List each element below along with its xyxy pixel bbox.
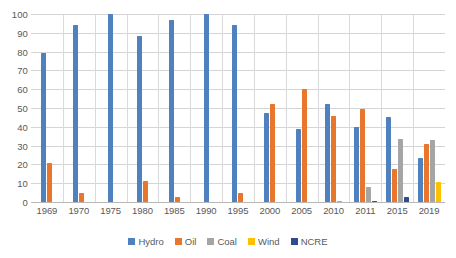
x-axis-tick: 1975 [95, 203, 127, 219]
bar-oil [79, 193, 84, 202]
bar-group [349, 14, 381, 202]
bar-oil [302, 89, 307, 202]
bar-wind [436, 182, 441, 202]
bar-oil [175, 197, 180, 202]
bar-ncre [372, 201, 377, 202]
plot-area [31, 14, 445, 202]
legend-label: Oil [185, 236, 197, 247]
x-axis-tick: 1970 [63, 203, 95, 219]
chart-legend: HydroOilCoalWindNCRE [0, 233, 456, 249]
x-axis-tick: 1980 [127, 203, 159, 219]
legend-item-ncre[interactable]: NCRE [291, 236, 328, 247]
bar-oil [270, 104, 275, 202]
bar-group [381, 14, 413, 202]
legend-label: NCRE [301, 236, 328, 247]
bar-oil [331, 116, 336, 202]
x-axis-tick: 2019 [413, 203, 445, 219]
bar-group [127, 14, 159, 202]
legend-item-wind[interactable]: Wind [248, 236, 280, 247]
y-axis-tick: 10 [17, 178, 28, 189]
x-axis-tick: 1995 [222, 203, 254, 219]
bar-group [158, 14, 190, 202]
bar-group [413, 14, 445, 202]
y-axis-tick: 30 [17, 140, 28, 151]
bar-ncre [404, 197, 409, 202]
bar-oil [238, 193, 243, 202]
legend-label: Coal [217, 236, 237, 247]
bar-chart: 1009080706050403020100 19691970197519801… [0, 0, 456, 258]
bar-group [95, 14, 127, 202]
bar-hydro [73, 25, 78, 202]
x-axis-tick: 2000 [254, 203, 286, 219]
bar-hydro [296, 129, 301, 202]
x-axis-tick: 2005 [286, 203, 318, 219]
bar-coal [398, 139, 403, 202]
bar-oil [392, 169, 397, 202]
bar-group [31, 14, 63, 202]
bar-groups [31, 14, 445, 202]
legend-label: Hydro [138, 236, 163, 247]
x-axis-tick: 2010 [318, 203, 350, 219]
y-axis-tick: 50 [17, 103, 28, 114]
bar-hydro [169, 20, 174, 202]
bar-hydro [232, 25, 237, 202]
bar-group [286, 14, 318, 202]
x-axis-tick: 1985 [158, 203, 190, 219]
y-axis-tick: 40 [17, 121, 28, 132]
bar-oil [143, 181, 148, 202]
bar-hydro [108, 14, 113, 202]
y-axis-tick: 90 [17, 27, 28, 38]
bar-coal [337, 201, 342, 202]
y-axis-tick: 80 [17, 46, 28, 57]
legend-swatch-icon [291, 238, 298, 245]
bar-hydro [354, 127, 359, 202]
x-axis-tick: 1969 [31, 203, 63, 219]
bar-hydro [204, 14, 209, 202]
y-axis-tick: 0 [23, 197, 28, 208]
y-axis-tick: 20 [17, 159, 28, 170]
bar-hydro [386, 117, 391, 202]
bar-coal [366, 187, 371, 202]
y-axis: 1009080706050403020100 [0, 14, 28, 202]
y-axis-tick: 100 [12, 9, 28, 20]
x-axis-tick: 2015 [381, 203, 413, 219]
legend-label: Wind [258, 236, 280, 247]
legend-swatch-icon [128, 238, 135, 245]
bar-oil [360, 109, 365, 202]
legend-item-coal[interactable]: Coal [207, 236, 237, 247]
bar-group [318, 14, 350, 202]
bar-coal [430, 140, 435, 202]
legend-swatch-icon [175, 238, 182, 245]
bar-oil [47, 163, 52, 202]
bar-hydro [325, 104, 330, 202]
legend-swatch-icon [207, 238, 214, 245]
legend-item-oil[interactable]: Oil [175, 236, 197, 247]
bar-group [190, 14, 222, 202]
bar-group [222, 14, 254, 202]
legend-swatch-icon [248, 238, 255, 245]
bar-group [63, 14, 95, 202]
bar-oil [424, 144, 429, 202]
bar-hydro [418, 158, 423, 202]
bar-hydro [137, 36, 142, 202]
x-axis: 1969197019751980198519901995200020052010… [31, 203, 445, 219]
x-axis-tick: 2011 [349, 203, 381, 219]
bar-hydro [41, 53, 46, 202]
y-axis-tick: 60 [17, 84, 28, 95]
bar-group [254, 14, 286, 202]
bar-hydro [264, 113, 269, 202]
legend-item-hydro[interactable]: Hydro [128, 236, 163, 247]
x-axis-tick: 1990 [190, 203, 222, 219]
y-axis-tick: 70 [17, 65, 28, 76]
